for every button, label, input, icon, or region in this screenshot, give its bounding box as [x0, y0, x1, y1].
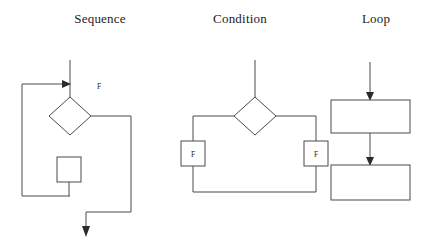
condition-merge-path: [193, 166, 316, 192]
condition-right-branch-path: [276, 116, 316, 141]
panel-condition: F F: [181, 60, 328, 192]
sequence-false-branch-label: F: [97, 82, 101, 91]
condition-left-branch-label: F: [191, 150, 195, 159]
sequence-false-exit-path: [86, 116, 131, 212]
sequence-exit-arrowhead: [82, 226, 90, 237]
condition-right-branch-label: F: [314, 150, 318, 159]
sequence-decision-diamond: [49, 97, 91, 135]
loop-second-box: [331, 165, 410, 200]
sequence-action-box: [57, 157, 81, 182]
panel-sequence: F: [22, 60, 131, 237]
loop-first-box: [331, 100, 410, 133]
condition-decision-diamond: [234, 97, 276, 135]
panel-loop: [331, 62, 410, 200]
condition-left-branch-path: [193, 116, 234, 141]
flowchart-figure: Sequence Condition Loop: [0, 0, 429, 245]
flowchart-canvas: F F F: [0, 0, 429, 245]
